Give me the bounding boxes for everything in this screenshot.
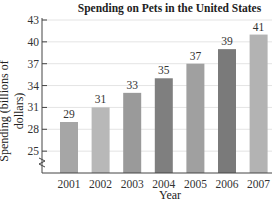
bar xyxy=(250,35,268,173)
bar xyxy=(60,122,78,173)
y-tick-label: 40 xyxy=(28,36,40,48)
y-tick-label: 34 xyxy=(28,80,40,92)
y-tick-label: 28 xyxy=(28,123,40,135)
x-tick-label: 2005 xyxy=(184,178,207,190)
x-tick-label: 2003 xyxy=(121,178,144,190)
data-label: 35 xyxy=(158,64,170,76)
bar xyxy=(123,93,141,173)
bar-chart: 2528313437404329200131200233200335200437… xyxy=(0,0,279,207)
axis-break-icon xyxy=(39,158,45,167)
bar xyxy=(218,49,236,173)
y-tick-label: 25 xyxy=(28,145,40,157)
y-tick-label: 43 xyxy=(28,14,40,26)
x-tick-label: 2001 xyxy=(58,178,81,190)
x-tick-label: 2004 xyxy=(152,178,175,190)
x-tick-label: 2002 xyxy=(89,178,112,190)
data-label: 39 xyxy=(221,35,233,47)
x-tick-label: 2007 xyxy=(247,178,270,190)
data-label: 37 xyxy=(190,50,202,62)
data-label: 41 xyxy=(253,21,265,33)
y-tick-label: 31 xyxy=(28,101,40,113)
x-tick-label: 2006 xyxy=(216,178,239,190)
bar xyxy=(92,107,110,173)
bar xyxy=(155,78,173,173)
y-tick-label: 37 xyxy=(28,58,40,70)
data-label: 29 xyxy=(63,108,75,120)
data-label: 33 xyxy=(126,79,138,91)
data-label: 31 xyxy=(95,93,107,105)
bar xyxy=(186,64,204,173)
